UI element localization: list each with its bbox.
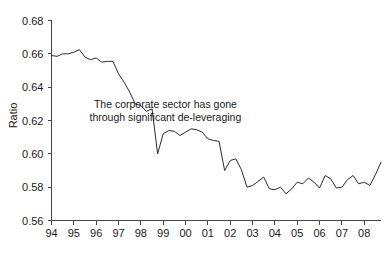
x-tick-label: 97 — [112, 227, 124, 239]
chart-annotation: The corporate sector has gone through si… — [90, 98, 242, 123]
ratio-line-chart: 0.680.660.640.620.600.580.56 94959697989… — [0, 0, 391, 254]
x-tick-label: 04 — [269, 227, 281, 239]
x-axis-group: 949596979899000102030405060708 — [45, 221, 381, 239]
y-tick-label: 0.66 — [22, 48, 43, 60]
x-tick-label: 94 — [45, 227, 57, 239]
x-tick-label: 98 — [135, 227, 147, 239]
x-axis-tick-labels: 949596979899000102030405060708 — [45, 227, 370, 239]
chart-canvas: 0.680.660.640.620.600.580.56 94959697989… — [0, 0, 391, 254]
annotation-line-2: through significant de-leveraging — [90, 111, 242, 123]
x-tick-label: 07 — [336, 227, 348, 239]
y-axis-tick-labels: 0.680.660.640.620.600.580.56 — [22, 15, 43, 227]
x-tick-label: 00 — [179, 227, 191, 239]
annotation-line-1: The corporate sector has gone — [94, 98, 237, 110]
x-tick-label: 06 — [313, 227, 325, 239]
x-tick-label: 96 — [90, 227, 102, 239]
y-axis-title: Ratio — [7, 103, 19, 129]
x-tick-label: 02 — [224, 227, 236, 239]
y-tick-label: 0.68 — [22, 15, 43, 27]
x-tick-label: 99 — [157, 227, 169, 239]
x-axis-ticks — [52, 221, 365, 225]
y-tick-label: 0.60 — [22, 148, 43, 160]
y-tick-label: 0.58 — [22, 181, 43, 193]
y-axis-ticks — [48, 21, 52, 221]
x-tick-label: 03 — [246, 227, 258, 239]
y-tick-label: 0.56 — [22, 215, 43, 227]
y-axis-group: 0.680.660.640.620.600.580.56 — [22, 15, 51, 227]
y-tick-label: 0.64 — [22, 81, 43, 93]
x-tick-label: 08 — [358, 227, 370, 239]
x-tick-label: 01 — [202, 227, 214, 239]
x-tick-label: 95 — [68, 227, 80, 239]
x-tick-label: 05 — [291, 227, 303, 239]
y-tick-label: 0.62 — [22, 115, 43, 127]
